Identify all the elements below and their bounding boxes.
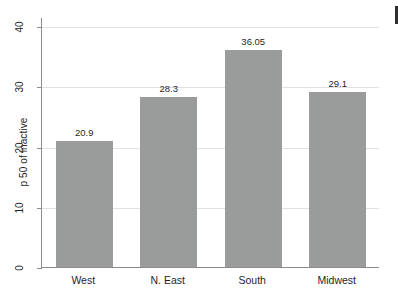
x-axis-category-label: N. East: [123, 272, 213, 288]
y-axis-tick: [37, 208, 42, 209]
x-axis-category-label: West: [38, 272, 128, 288]
x-axis-category-label: South: [207, 272, 297, 288]
y-axis-tick-label: 10: [13, 196, 27, 220]
y-axis-tick-label: 0: [13, 256, 27, 280]
y-axis-tick: [37, 27, 42, 28]
y-axis-tick-label: 40: [13, 15, 27, 39]
y-axis-tick-label: 20: [13, 136, 27, 160]
plot-frame: 01020304020.928.336.0529.1: [41, 18, 379, 268]
bar[interactable]: [56, 141, 113, 267]
bar-chart-figure: p 50 of inactive 01020304020.928.336.052…: [0, 0, 398, 304]
bar[interactable]: [309, 92, 366, 267]
bar-value-label: 20.9: [54, 127, 114, 139]
bar[interactable]: [140, 97, 197, 267]
bar-value-label: 36.05: [223, 36, 283, 48]
plot-area: 01020304020.928.336.0529.1: [42, 18, 379, 267]
bar[interactable]: [225, 50, 282, 267]
y-axis-tick: [37, 87, 42, 88]
y-axis-tick: [37, 268, 42, 269]
y-axis-tick: [37, 148, 42, 149]
bar-value-label: 29.1: [308, 78, 368, 90]
bar-value-label: 28.3: [139, 83, 199, 95]
x-axis-category-label: Midwest: [292, 272, 382, 288]
y-axis-tick-label: 30: [13, 75, 27, 99]
gridline: [42, 27, 379, 28]
